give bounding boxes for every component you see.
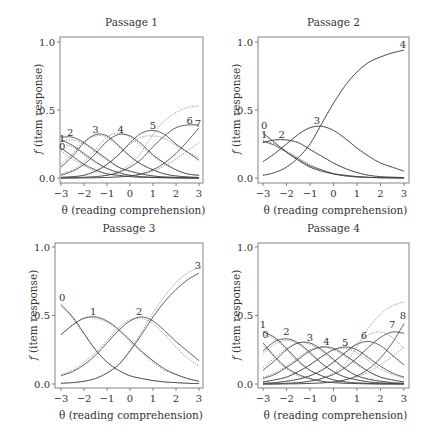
x-tick-label: −3 <box>256 393 271 404</box>
curve-label: 4 <box>323 336 329 347</box>
curve-label: 2 <box>283 326 289 337</box>
y-tick-label: 0.0 <box>237 379 253 390</box>
curve-label: 3 <box>307 332 313 343</box>
x-tick-label: 3 <box>401 393 407 404</box>
curve-label: 5 <box>342 337 348 348</box>
observed-curve-6 <box>263 332 404 383</box>
curve-label: 8 <box>400 310 406 321</box>
plot-frame <box>258 243 409 388</box>
x-tick-label: 2 <box>377 393 383 404</box>
x-tick-label: −1 <box>303 393 318 404</box>
y-tick-label: 0.5 <box>237 310 253 321</box>
model-curve-7 <box>263 332 404 384</box>
model-curve-1 <box>263 332 404 384</box>
x-tick-label: 0 <box>330 393 336 404</box>
y-tick-label: 1.0 <box>237 242 253 253</box>
model-curve-6 <box>263 342 404 384</box>
curve-label: 0 <box>262 329 268 340</box>
plot-area: 0.00.51.0−3−2−10123012345678 <box>0 0 430 443</box>
x-tick-label: −2 <box>279 393 294 404</box>
x-tick-label: 1 <box>354 393 360 404</box>
curve-label: 1 <box>260 319 266 330</box>
observed-curve-5 <box>263 348 404 382</box>
curve-label: 7 <box>389 319 395 330</box>
curves: 012345678 <box>260 302 406 384</box>
